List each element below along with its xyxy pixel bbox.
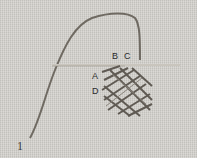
stitch-drawing [0, 0, 197, 158]
step-number: 1 [17, 139, 23, 154]
label-c: C [124, 52, 131, 61]
label-d: D [92, 87, 99, 96]
stitch-cluster [102, 66, 152, 116]
label-a: A [92, 72, 98, 81]
embroidery-photo: B C A D 1 [0, 0, 197, 158]
label-b: B [112, 52, 118, 61]
